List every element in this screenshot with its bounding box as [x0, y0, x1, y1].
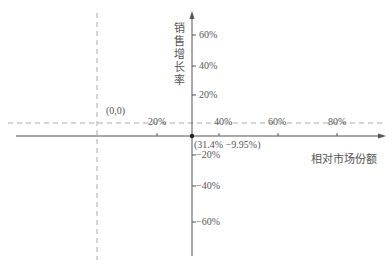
data-point — [190, 134, 194, 138]
point-label: (31.4% −9.95%) — [194, 140, 260, 150]
y-tick-label: −20% — [196, 150, 220, 160]
ylabel-char: 售 — [173, 35, 185, 48]
ylabel-char: 增 — [173, 48, 185, 61]
x-tick-label: 20% — [148, 117, 166, 127]
y-tick-label: −60% — [196, 217, 220, 227]
y-tick-label: 40% — [199, 61, 217, 71]
x-tick-label: 60% — [268, 117, 286, 127]
y-axis-label: 销 售 增 长 率 — [173, 22, 185, 87]
origin-label: (0,0) — [106, 106, 125, 116]
x-tick-label: 80% — [328, 117, 346, 127]
x-axis-label: 相对市场份额 — [311, 154, 377, 165]
x-tick-label: 40% — [214, 117, 232, 127]
ylabel-char: 销 — [173, 22, 185, 35]
chart-canvas — [0, 0, 392, 273]
ylabel-char: 长 — [173, 61, 185, 74]
x-axis-arrow — [378, 134, 386, 139]
y-tick-label: 20% — [199, 90, 217, 100]
y-tick-label: 60% — [199, 30, 217, 40]
ylabel-char: 率 — [173, 74, 185, 87]
y-tick-label: −40% — [196, 181, 220, 191]
y-axis-arrow — [190, 11, 195, 19]
